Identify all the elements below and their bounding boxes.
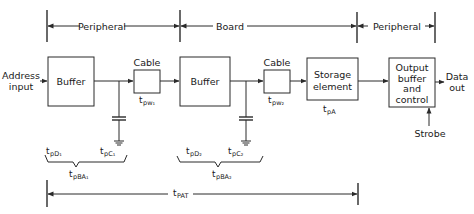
capacitor-1 — [112, 81, 126, 145]
svg-text:and: and — [403, 83, 421, 94]
svg-text:pC₁: pC₁ — [104, 150, 116, 158]
svg-text:Strobe: Strobe — [414, 128, 445, 139]
timing-label-t-pD2: t pD₂ — [186, 146, 202, 158]
svg-text:control: control — [396, 94, 429, 105]
region-label: Board — [216, 21, 244, 32]
address-input: Address input — [2, 70, 47, 92]
svg-text:PAT: PAT — [177, 192, 188, 200]
cable-2: Cable t pw₂ — [264, 57, 291, 107]
cable-1: Cable t pw₁ — [134, 57, 161, 107]
region-board: Board — [181, 21, 356, 32]
svg-text:element: element — [313, 81, 352, 92]
ground-icon — [114, 141, 124, 145]
buffer-2: Buffer — [180, 57, 230, 106]
timing-label-t-pA: t pA — [323, 104, 336, 116]
svg-text:input: input — [9, 81, 34, 92]
svg-text:Storage: Storage — [314, 69, 351, 80]
timing-bracket-2: t pD₂ t pC₂ t pBA₂ — [177, 146, 263, 181]
svg-text:out: out — [449, 82, 465, 93]
svg-text:Output: Output — [396, 62, 429, 73]
svg-text:pA: pA — [327, 108, 336, 116]
timing-label-t-pw1: t pw₁ — [139, 95, 155, 107]
svg-text:pBA₂: pBA₂ — [216, 173, 232, 181]
timing-label-t-pC1: t pC₁ — [100, 146, 116, 158]
svg-text:Buffer: Buffer — [191, 76, 220, 87]
svg-text:pD₁: pD₁ — [50, 150, 62, 158]
svg-text:buffer: buffer — [398, 73, 426, 84]
region-ruler: Peripheral Board Peripheral — [47, 10, 435, 43]
svg-text:pw₁: pw₁ — [143, 99, 155, 107]
region-peripheral-left: Peripheral — [48, 21, 179, 32]
region-label: Peripheral — [373, 21, 421, 32]
capacitor-2 — [239, 81, 253, 145]
svg-text:pBA₁: pBA₁ — [73, 173, 89, 181]
total-access-time: t PAT — [47, 180, 358, 207]
output-buffer-control: Output buffer and control — [389, 58, 435, 107]
svg-text:Address: Address — [2, 70, 40, 81]
data-output: Data out — [435, 71, 468, 93]
svg-text:pC₂: pC₂ — [232, 150, 244, 158]
region-label: Peripheral — [78, 21, 126, 32]
svg-text:Cable: Cable — [264, 57, 291, 68]
strobe-input: Strobe — [414, 108, 445, 139]
region-peripheral-right: Peripheral — [358, 21, 434, 32]
svg-text:pD₂: pD₂ — [190, 150, 202, 158]
svg-text:Data: Data — [446, 71, 469, 82]
ground-icon — [241, 141, 251, 145]
timing-label-t-pC2: t pC₂ — [228, 146, 244, 158]
timing-label-t-pD1: t pD₁ — [46, 146, 62, 158]
svg-text:Cable: Cable — [134, 57, 161, 68]
timing-label-t-PAT: t PAT — [173, 188, 188, 200]
timing-bracket-1: t pD₁ t pC₁ t pBA₁ — [45, 146, 127, 181]
timing-label-t-pBA2: t pBA₂ — [212, 169, 232, 181]
storage-element: Storage element t pA — [307, 58, 358, 116]
svg-text:Buffer: Buffer — [57, 76, 86, 87]
svg-text:pw₂: pw₂ — [272, 99, 284, 107]
timing-label-t-pBA1: t pBA₁ — [69, 169, 89, 181]
timing-label-t-pw2: t pw₂ — [268, 95, 284, 107]
buffer-1: Buffer — [48, 57, 94, 106]
access-time-diagram: Peripheral Board Peripheral Address inpu… — [0, 0, 474, 214]
